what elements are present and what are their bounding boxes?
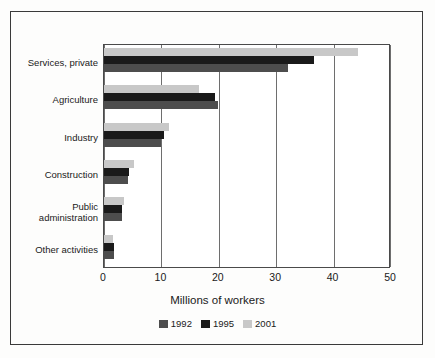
bar-group — [104, 120, 389, 157]
x-axis-label: Millions of workers — [0, 294, 435, 306]
category-axis-labels: Services, privateAgricultureIndustryCons… — [0, 44, 98, 268]
bar-1995 — [104, 168, 129, 176]
legend-item-1992: 1992 — [159, 318, 192, 329]
category-label-line: Agriculture — [3, 94, 98, 106]
x-tick-label: 30 — [269, 271, 281, 283]
bar-1992 — [104, 251, 114, 259]
category-label-line: Public — [3, 201, 98, 213]
bar-2001 — [104, 197, 124, 205]
legend-item-2001: 2001 — [243, 318, 276, 329]
bar-2001 — [104, 160, 134, 168]
bar-2001 — [104, 235, 113, 243]
bar-2001 — [104, 48, 358, 56]
category-label: Agriculture — [3, 94, 98, 106]
x-tick-label: 40 — [327, 271, 339, 283]
legend-label: 1992 — [171, 318, 192, 329]
x-tick-label: 20 — [212, 271, 224, 283]
legend-label: 1995 — [213, 318, 234, 329]
category-label: Construction — [3, 169, 98, 181]
bar-1992 — [104, 64, 288, 72]
category-label-line: Industry — [3, 132, 98, 144]
category-label-line: Services, private — [3, 57, 98, 69]
category-label: Industry — [3, 132, 98, 144]
legend-item-1995: 1995 — [201, 318, 234, 329]
bar-2001 — [104, 85, 199, 93]
bar-group — [104, 45, 389, 82]
bar-group — [104, 232, 389, 269]
x-tick-label: 0 — [100, 271, 106, 283]
x-tick-label: 50 — [384, 271, 396, 283]
bar-2001 — [104, 123, 169, 131]
category-label: Publicadministration — [3, 201, 98, 224]
x-tick-label: 10 — [155, 271, 167, 283]
legend-label: 2001 — [255, 318, 276, 329]
plot-area — [103, 44, 390, 268]
bar-1995 — [104, 205, 122, 213]
bar-group — [104, 194, 389, 231]
bar-group — [104, 157, 389, 194]
category-label: Other activities — [3, 244, 98, 256]
category-label: Services, private — [3, 57, 98, 69]
bar-1992 — [104, 101, 218, 109]
category-label-line: Other activities — [3, 244, 98, 256]
chart-figure: Services, privateAgricultureIndustryCons… — [0, 0, 435, 358]
bar-1992 — [104, 213, 122, 221]
bar-group — [104, 82, 389, 119]
bar-1992 — [104, 139, 161, 147]
category-label-line: administration — [3, 212, 98, 224]
legend-swatch-icon — [243, 320, 252, 328]
x-axis-ticks: 01020304050 — [103, 271, 390, 287]
bar-1995 — [104, 93, 215, 101]
bar-1995 — [104, 243, 114, 251]
bar-1995 — [104, 56, 314, 64]
chart-legend: 199219952001 — [0, 318, 435, 329]
gridline-50 — [390, 45, 391, 267]
legend-swatch-icon — [159, 320, 168, 328]
bar-1995 — [104, 131, 164, 139]
bar-1992 — [104, 176, 128, 184]
category-label-line: Construction — [3, 169, 98, 181]
legend-swatch-icon — [201, 320, 210, 328]
